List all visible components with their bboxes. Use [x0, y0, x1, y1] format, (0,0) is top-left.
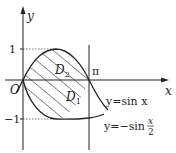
frac-denominator: 2 — [148, 127, 154, 137]
origin-label: O — [10, 83, 20, 97]
region-d2-label: D2 — [54, 63, 70, 79]
tick-label-pi: π — [92, 65, 99, 78]
y-arrow-icon — [21, 6, 26, 14]
neg-sin-half-label: y=−sin — [103, 120, 145, 133]
sin-curve-label: y=sin x — [105, 95, 148, 108]
region-d1-label: D1 — [65, 90, 81, 106]
tick-label-1: 1 — [9, 43, 16, 56]
y-axis-label: y — [26, 9, 34, 23]
frac-numerator: x — [148, 116, 153, 126]
tick-label-neg1: −1 — [4, 113, 20, 126]
region-diagram: y x O 1 −1 π D2 D1 y=sin x y=−sin x 2 — [0, 0, 176, 153]
x-arrow-icon — [161, 78, 169, 83]
x-axis-label: x — [165, 84, 172, 98]
